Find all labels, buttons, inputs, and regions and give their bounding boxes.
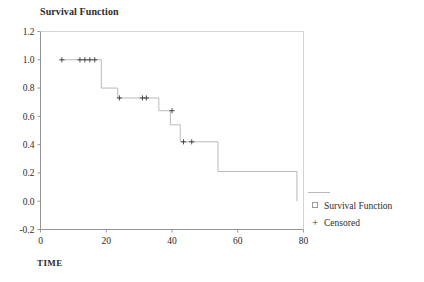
svg-text:0.2: 0.2 bbox=[23, 168, 35, 178]
plus-icon: + bbox=[306, 217, 324, 228]
svg-text:80: 80 bbox=[299, 236, 309, 246]
svg-text:0.6: 0.6 bbox=[23, 112, 35, 122]
censored-markers bbox=[59, 57, 194, 144]
svg-text:60: 60 bbox=[233, 236, 243, 246]
svg-text:40: 40 bbox=[167, 236, 177, 246]
legend-label-censored: Censored bbox=[324, 218, 360, 228]
x-axis-label: TIME bbox=[37, 258, 63, 268]
y-axis-tick-labels: 1.21.00.80.60.40.20.0-0.2 bbox=[19, 27, 34, 235]
svg-text:-0.2: -0.2 bbox=[19, 225, 34, 235]
legend-square-icon bbox=[306, 201, 324, 210]
legend-label-survival-function: Survival Function bbox=[324, 201, 392, 211]
plot-canvas: 1.21.00.80.60.40.20.0-0.2 020406080 bbox=[0, 0, 424, 282]
axis-tick-marks bbox=[38, 32, 304, 233]
svg-text:1.0: 1.0 bbox=[23, 55, 35, 65]
x-axis-tick-labels: 020406080 bbox=[38, 236, 308, 246]
svg-text:0.8: 0.8 bbox=[23, 83, 35, 93]
legend-line-sample bbox=[308, 192, 330, 193]
legend-item-survival-function: Survival Function bbox=[306, 198, 422, 213]
survival-function-chart: Survival Function 1.21.00.80.60.40.20.0-… bbox=[0, 0, 424, 282]
svg-text:0: 0 bbox=[38, 236, 43, 246]
svg-text:0.4: 0.4 bbox=[23, 140, 35, 150]
legend-item-censored: + Censored bbox=[306, 215, 422, 230]
svg-text:0.0: 0.0 bbox=[23, 197, 35, 207]
svg-text:20: 20 bbox=[102, 236, 112, 246]
svg-text:1.2: 1.2 bbox=[23, 27, 35, 37]
chart-legend: Survival Function + Censored bbox=[306, 192, 422, 232]
survival-step-line bbox=[60, 60, 297, 201]
